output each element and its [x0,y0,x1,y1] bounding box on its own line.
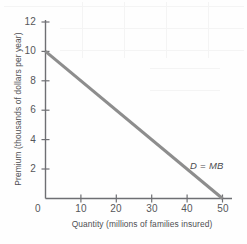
x-tick-label: 40 [174,203,200,214]
origin-label: 0 [30,203,46,214]
x-tick-label: 30 [139,203,165,214]
chart-figure: 12 10 8 6 4 2 0 10 20 30 40 50 Premium (… [0,0,247,244]
x-tick-label: 20 [103,203,129,214]
x-tick-label: 10 [68,203,94,214]
demand-curve [46,51,223,198]
x-tick-label: 50 [210,203,236,214]
x-axis-title: Quantity (millions of families insured) [40,219,244,229]
y-axis-title: Premium (thousands of dollars per year) [13,29,23,189]
demand-curve-label: D = MB [190,160,224,171]
y-tick-label: 12 [8,16,36,27]
